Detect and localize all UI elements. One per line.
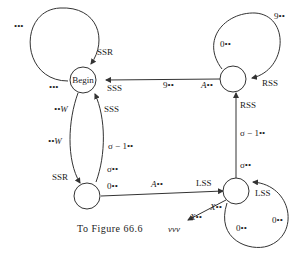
- label-tr-loop-nine: 9••: [274, 11, 285, 21]
- label-sigma-minus-1-left: σ − 1••: [108, 141, 133, 151]
- label-left-w2: ••W: [48, 136, 63, 146]
- label-begin-loop-bottom-dots: •••: [49, 82, 58, 92]
- label-lss-bottom: LSS: [196, 178, 212, 188]
- edge-bottomleft-to-begin: [95, 94, 103, 182]
- label-begin-loop-top-dots: •••: [14, 21, 23, 31]
- label-sigma-minus-1-right: σ − 1••: [240, 128, 265, 138]
- node-bottom-left: [74, 183, 100, 209]
- label-zero-left: 0••: [107, 181, 118, 191]
- node-top-right: [220, 66, 246, 92]
- label-begin-in-sss: SSS: [107, 83, 122, 93]
- caption-to-figure: To Figure 66.6: [77, 223, 143, 234]
- label-a-bottom: A••: [150, 179, 163, 189]
- label-out-x: X••: [189, 212, 202, 222]
- label-left-ssr: SSR: [52, 172, 68, 182]
- label-br-loop-zero1: 0••: [236, 223, 247, 233]
- label-begin-loop-ssr: SSR: [97, 47, 113, 57]
- label-out-vvv: vvv: [168, 224, 180, 234]
- label-tr-loop-zero: 0••: [220, 39, 231, 49]
- label-br-loop-x: X••: [209, 202, 222, 212]
- node-bottom-right: [223, 178, 249, 204]
- label-br-loop-lss: LSS: [255, 188, 271, 198]
- label-left-w1: ••W: [54, 104, 69, 114]
- state-diagram: Begin ••• ••• SSR SSS SSS ••W ••W SSR σ …: [0, 0, 306, 259]
- label-nine-top: 9••: [163, 80, 174, 90]
- label-a-top: A••: [200, 80, 213, 90]
- node-begin-label: Begin: [72, 75, 94, 85]
- edge-bottomleft-to-bottomright: [101, 191, 223, 196]
- label-tr-loop-rss: RSS: [262, 78, 278, 88]
- label-sigma-right: σ••: [240, 160, 251, 170]
- label-br-loop-zero2: 0••: [272, 215, 283, 225]
- label-sigma-left: σ••: [107, 164, 118, 174]
- edge-begin-to-bottomleft: [70, 93, 80, 183]
- label-rss-vertical: RSS: [240, 100, 256, 110]
- label-begin-up-sss: SSS: [104, 104, 119, 114]
